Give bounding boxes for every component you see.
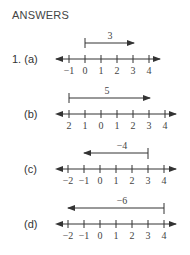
svg-text:2: 2 bbox=[130, 175, 135, 186]
svg-text:1: 1 bbox=[83, 120, 88, 131]
svg-text:0: 0 bbox=[83, 65, 88, 76]
svg-text:4: 4 bbox=[147, 65, 152, 76]
svg-text:2: 2 bbox=[67, 120, 72, 131]
svg-text:−1: −1 bbox=[79, 175, 90, 186]
svg-text:3: 3 bbox=[131, 65, 136, 76]
svg-text:2: 2 bbox=[131, 120, 136, 131]
svg-text:4: 4 bbox=[163, 120, 168, 131]
svg-text:5: 5 bbox=[105, 85, 110, 96]
svg-text:0: 0 bbox=[99, 120, 104, 131]
svg-text:1: 1 bbox=[99, 65, 104, 76]
svg-text:−2: −2 bbox=[63, 175, 74, 186]
svg-text:1: 1 bbox=[115, 120, 120, 131]
number-line-d: −2 −1 0 1 2 3 4 −6 bbox=[55, 195, 176, 241]
svg-text:4: 4 bbox=[162, 230, 167, 241]
arrow-left-icon bbox=[55, 56, 63, 62]
svg-text:4: 4 bbox=[162, 175, 167, 186]
svg-text:3: 3 bbox=[146, 230, 151, 241]
svg-text:2: 2 bbox=[130, 230, 135, 241]
number-line-a: −1 0 1 2 3 4 3 bbox=[55, 30, 160, 76]
number-lines-diagram: −1 0 1 2 3 4 3 2 1 0 1 2 3 4 5 bbox=[0, 0, 190, 255]
number-line-b: 2 1 0 1 2 3 4 5 bbox=[55, 85, 176, 131]
svg-text:0: 0 bbox=[98, 175, 103, 186]
svg-text:−6: −6 bbox=[117, 195, 128, 206]
number-line-c: −2 −1 0 1 2 3 4 −4 bbox=[55, 140, 176, 186]
svg-text:−1: −1 bbox=[64, 65, 75, 76]
svg-text:3: 3 bbox=[147, 120, 152, 131]
svg-text:−2: −2 bbox=[63, 230, 74, 241]
svg-text:0: 0 bbox=[98, 230, 103, 241]
svg-text:3: 3 bbox=[108, 30, 113, 41]
svg-text:2: 2 bbox=[115, 65, 120, 76]
svg-text:−4: −4 bbox=[117, 140, 128, 151]
svg-text:1: 1 bbox=[114, 230, 119, 241]
svg-text:3: 3 bbox=[146, 175, 151, 186]
svg-text:−1: −1 bbox=[79, 230, 90, 241]
svg-text:1: 1 bbox=[114, 175, 119, 186]
